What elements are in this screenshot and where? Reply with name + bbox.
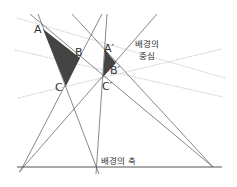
label-b: B (75, 46, 83, 59)
center-label-line1: 배경의 (135, 39, 159, 49)
label-b-prime: B′ (110, 64, 121, 77)
label-c-prime: C′ (102, 80, 113, 93)
center-label-line2: 중심 (139, 51, 155, 61)
side-line (19, 14, 157, 172)
label-a: A (34, 23, 42, 36)
desargues-diagram: A B C A′ B′ C′ 배경의 중심 배경의 축 (0, 0, 237, 187)
axis-label: 배경의 축 (101, 156, 136, 166)
side-line (72, 14, 213, 167)
perspective-ray (17, 18, 225, 78)
side-line (96, 14, 107, 174)
perspective-rays (15, 18, 225, 98)
label-a-prime: A′ (104, 42, 115, 55)
label-c: C (55, 81, 63, 94)
